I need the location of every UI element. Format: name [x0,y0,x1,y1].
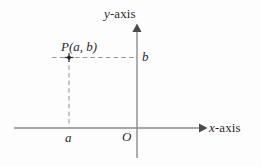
coordinate-plane-figure: y-axis x-axis P(a, b) b a O [0,0,261,167]
y-tick-label-b: b [142,50,149,63]
x-axis-label: x-axis [209,121,241,134]
x-axis-arrowhead [199,123,208,132]
origin-label: O [122,130,131,143]
y-axis-label: y-axis [104,7,136,20]
x-axis-label-suffix: -axis [215,120,241,135]
point-p-marker [65,53,74,62]
point-p-label: P(a, b) [61,40,97,53]
y-axis-label-suffix: -axis [110,6,136,21]
y-axis-arrowhead [132,24,141,33]
x-tick-label-a: a [65,131,72,144]
